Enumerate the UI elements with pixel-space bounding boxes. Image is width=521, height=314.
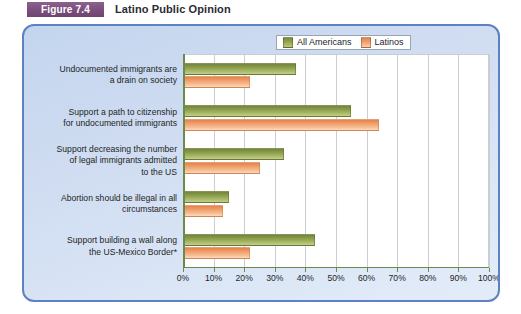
bar-fill: [183, 148, 284, 160]
category-label-line: for undocumented immigrants: [24, 118, 177, 129]
value-axis-tick-label: 30%: [266, 272, 283, 284]
gridline: [336, 54, 337, 268]
category-label: Support a path to citizenshipfor undocum…: [24, 107, 177, 129]
bar-fill: [183, 205, 223, 217]
plot-area: [183, 54, 489, 268]
gridline: [458, 54, 459, 268]
category-label-line: Support building a wall along: [24, 235, 177, 246]
value-axis-tick-label: 40%: [297, 272, 314, 284]
category-label: Support decreasing the numberof legal im…: [24, 144, 177, 178]
bar-green: [183, 148, 284, 160]
category-label-line: Support decreasing the number: [24, 144, 177, 155]
category-label-line: circumstances: [24, 204, 177, 215]
bar-orange: [183, 119, 379, 131]
value-axis-tick-label: 70%: [389, 272, 406, 284]
chart-legend: All Americans Latinos: [276, 35, 411, 50]
value-axis-tick-label: 0%: [177, 272, 189, 284]
bar-fill: [183, 234, 315, 246]
value-axis-tick-label: 60%: [358, 272, 375, 284]
bar-orange: [183, 76, 250, 88]
bar-fill: [183, 105, 351, 117]
gridline: [428, 54, 429, 268]
category-label-line: Abortion should be illegal in all: [24, 193, 177, 204]
chart-body: Undocumented immigrants area drain on so…: [24, 54, 498, 300]
category-label-line: a drain on society: [24, 75, 177, 86]
legend-item-latinos: Latinos: [361, 37, 404, 48]
gridline: [397, 54, 398, 268]
bar-orange: [183, 205, 223, 217]
category-label: Abortion should be illegal in allcircums…: [24, 193, 177, 215]
legend-swatch-icon-latinos: [361, 37, 371, 48]
figure-header: Figure 7.4 Latino Public Opinion: [0, 0, 521, 22]
value-axis-tick-label: 90%: [450, 272, 467, 284]
legend-item-all-americans: All Americans: [283, 37, 352, 48]
value-axis-tick-label: 100%: [478, 272, 500, 284]
bar-green: [183, 234, 315, 246]
legend-label-all-americans: All Americans: [297, 38, 352, 47]
category-label: Undocumented immigrants area drain on so…: [24, 64, 177, 86]
page-title: Latino Public Opinion: [115, 2, 231, 17]
category-axis-labels: Undocumented immigrants area drain on so…: [24, 54, 181, 268]
figure-container: Figure 7.4 Latino Public Opinion All Ame…: [0, 0, 521, 314]
bar-orange: [183, 162, 260, 174]
bar-fill: [183, 119, 379, 131]
bar-fill: [183, 162, 260, 174]
bar-fill: [183, 247, 250, 259]
chart-panel: All Americans Latinos Undocumented immig…: [22, 24, 500, 302]
figure-number-badge: Figure 7.4: [27, 2, 104, 17]
legend-label-latinos: Latinos: [375, 38, 404, 47]
category-label-line: of legal immigrants admitted: [24, 155, 177, 166]
bar-fill: [183, 63, 296, 75]
bar-green: [183, 105, 351, 117]
category-label-line: Undocumented immigrants are: [24, 64, 177, 75]
value-axis-labels: 0%10%20%30%40%50%60%70%80%90%100%: [183, 272, 489, 286]
gridline: [489, 54, 490, 268]
value-axis-tick-label: 10%: [205, 272, 222, 284]
legend-swatch-icon-all-americans: [283, 37, 293, 48]
bar-green: [183, 63, 296, 75]
category-label: Support building a wall alongthe US-Mexi…: [24, 235, 177, 257]
category-label-line: Support a path to citizenship: [24, 107, 177, 118]
value-axis-tick-label: 50%: [327, 272, 344, 284]
bar-green: [183, 191, 229, 203]
bar-orange: [183, 247, 250, 259]
bar-fill: [183, 191, 229, 203]
gridline: [367, 54, 368, 268]
category-label-line: the US-Mexico Border*: [24, 247, 177, 258]
value-axis-tick-label: 80%: [419, 272, 436, 284]
category-label-line: to the US: [24, 167, 177, 178]
value-axis-tick-label: 20%: [236, 272, 253, 284]
bar-fill: [183, 76, 250, 88]
value-axis-left-line: [183, 54, 185, 268]
